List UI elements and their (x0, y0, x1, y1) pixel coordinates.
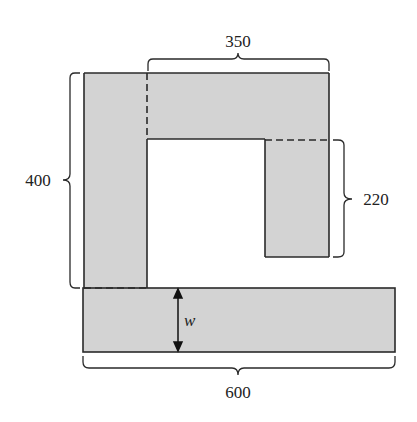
bottom-bar (83, 288, 395, 352)
left-column (84, 73, 147, 288)
brace-right (333, 140, 352, 257)
label-top-width: 350 (225, 32, 251, 51)
brace-top (148, 53, 329, 71)
label-thickness: w (184, 311, 196, 330)
shaded-region (83, 73, 395, 352)
right-column (265, 139, 329, 257)
top-bar (147, 73, 329, 139)
label-bottom-width: 600 (225, 383, 251, 402)
label-left-height: 400 (25, 171, 51, 190)
diagram-canvas: 350 400 220 600 w (0, 0, 417, 422)
brace-bottom (83, 356, 395, 375)
brace-left (63, 73, 80, 288)
label-right-height: 220 (363, 190, 389, 209)
